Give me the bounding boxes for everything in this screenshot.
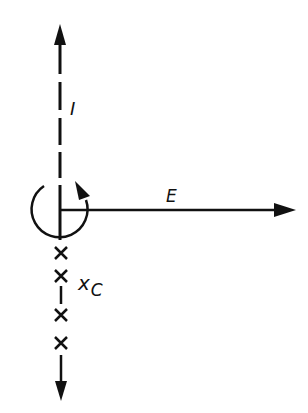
cross-mark-icon	[55, 309, 67, 321]
cross-mark-icon	[55, 337, 67, 349]
field-label: E	[166, 186, 177, 206]
cross-mark-icon	[55, 247, 67, 259]
position-label: xC	[78, 271, 102, 295]
position-label-main: x	[78, 271, 90, 295]
down-arrow-head-icon	[55, 381, 67, 401]
diagram-canvas: I E xC	[0, 0, 308, 413]
current-label: I	[70, 98, 75, 119]
position-label-sub: C	[91, 280, 103, 300]
circulation-arrow-head-icon	[75, 181, 90, 200]
diagram-svg	[0, 0, 308, 413]
cross-mark-icon	[55, 270, 67, 282]
up-arrow-head-icon	[54, 24, 66, 45]
field-arrow-head-icon	[274, 203, 296, 217]
